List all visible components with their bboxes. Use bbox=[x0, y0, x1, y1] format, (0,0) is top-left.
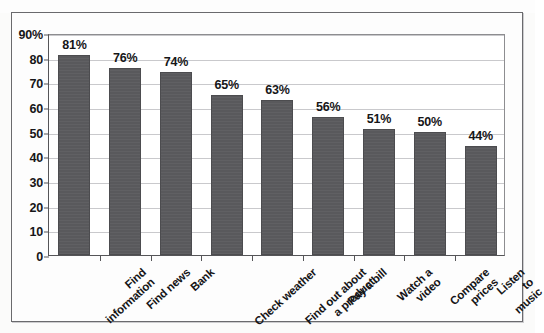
y-axis-tick-label: 70 bbox=[29, 77, 43, 91]
category-axis-labels: Find informationFind newsBankCheck weath… bbox=[48, 256, 505, 322]
y-axis-tick-label: 90% bbox=[19, 28, 43, 42]
bar-slot: 50% bbox=[404, 35, 455, 255]
bar[interactable] bbox=[465, 146, 497, 255]
bar-slot: 44% bbox=[455, 35, 506, 255]
bar-value-label: 50% bbox=[418, 115, 442, 129]
bar[interactable] bbox=[211, 95, 243, 255]
bar-slot: 76% bbox=[100, 35, 151, 255]
bar-slot: 74% bbox=[151, 35, 202, 255]
y-axis-tick-label: 80 bbox=[29, 53, 43, 67]
bar-value-label: 76% bbox=[113, 51, 137, 65]
bar-slot: 81% bbox=[49, 35, 100, 255]
bar-slot: 51% bbox=[354, 35, 405, 255]
bar[interactable] bbox=[363, 129, 395, 255]
bar-value-label: 81% bbox=[62, 38, 86, 52]
category-label: Find information bbox=[95, 266, 158, 326]
bar-value-label: 63% bbox=[265, 83, 289, 97]
y-axis-tick-label: 0 bbox=[36, 250, 43, 264]
bar[interactable] bbox=[261, 100, 293, 255]
y-axis-tick-label: 40 bbox=[29, 151, 43, 165]
bar-value-label: 65% bbox=[214, 78, 238, 92]
bar[interactable] bbox=[312, 117, 344, 255]
y-axis-tick-label: 50 bbox=[29, 127, 43, 141]
category-label: Listen to music bbox=[494, 266, 544, 317]
bar[interactable] bbox=[109, 68, 141, 255]
y-axis-tick-label: 60 bbox=[29, 102, 43, 116]
plot-area: 90%8070605040302010081%76%74%65%63%56%51… bbox=[48, 34, 505, 256]
category-label: Compare prices bbox=[447, 266, 500, 318]
bar[interactable] bbox=[58, 55, 90, 255]
bar-slot: 56% bbox=[303, 35, 354, 255]
bar-slot: 63% bbox=[252, 35, 303, 255]
y-axis-tick-label: 10 bbox=[29, 225, 43, 239]
bar-value-label: 44% bbox=[468, 129, 492, 143]
bar[interactable] bbox=[160, 72, 192, 255]
category-label: Bank bbox=[188, 266, 217, 294]
bar-value-label: 51% bbox=[367, 112, 391, 126]
bar-value-label: 56% bbox=[316, 100, 340, 114]
bar[interactable] bbox=[414, 132, 446, 255]
y-axis-tick-label: 30 bbox=[29, 176, 43, 190]
bar-slot: 65% bbox=[201, 35, 252, 255]
y-axis-tick-label: 20 bbox=[29, 201, 43, 215]
category-label: Watch a video bbox=[395, 266, 444, 314]
bar-chart: 90%8070605040302010081%76%74%65%63%56%51… bbox=[11, 12, 523, 322]
bar-value-label: 74% bbox=[164, 55, 188, 69]
